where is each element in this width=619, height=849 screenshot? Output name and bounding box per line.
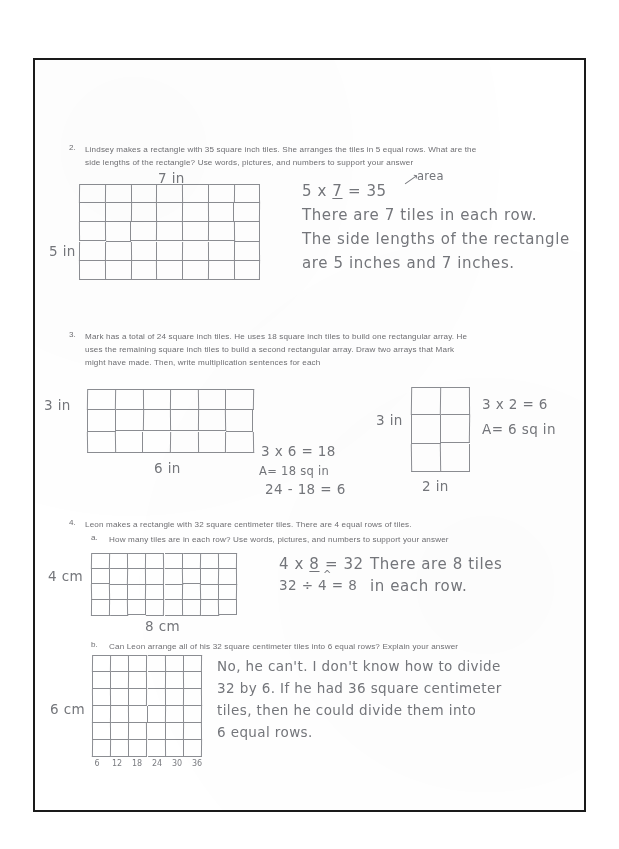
q4b-grid-left-label: 6 cm [50,701,85,717]
grid-cell [170,432,198,453]
grid-row [91,600,237,616]
grid-cell [226,410,254,431]
q3-array-a-work-line-2: A= 18 sq in [259,464,329,478]
grid-cell [111,672,129,689]
grid-cell [209,242,235,261]
question-4b-letter: b. [91,640,98,649]
grid-cell [184,689,202,706]
grid-cell [147,672,165,689]
grid-cell [110,600,128,616]
grid-cell [129,672,147,689]
grid-cell [143,389,171,410]
grid-cell [166,689,184,706]
grid-cell [106,261,132,280]
grid-row [92,672,202,689]
q2-answer-line-1: There are 7 tiles in each row. [302,206,537,224]
grid-cell [219,553,237,569]
grid-cell [110,569,128,585]
grid-cell [183,569,201,585]
q4a-equation-prefix: 4 x [279,555,309,573]
grid-cell [209,261,235,280]
q2-equation-suffix: = 35 [343,182,387,200]
grid-row [92,689,202,706]
grid-cell [91,553,110,569]
grid-cell [79,222,106,241]
grid-row [92,740,202,757]
grid-row [79,261,260,280]
grid-cell [234,203,260,222]
grid-cell [166,672,184,689]
grid-row [87,432,253,453]
grid-cell [166,740,184,757]
grid-cell [87,410,116,431]
grid-cell [208,184,234,203]
grid-cell [147,655,165,672]
grid-cell [147,740,165,757]
skip-count-label: 30 [167,759,187,768]
grid-cell [115,389,143,410]
grid-cell [147,706,165,723]
grid-row [91,584,237,600]
grid-cell [183,242,209,261]
q3-array-a-work-line-1: 3 x 6 = 18 [261,443,336,459]
grid-cell [128,553,146,569]
grid-cell [92,655,111,672]
question-2-line-2: side lengths of the rectangle? Use words… [85,156,565,169]
grid-cell [170,389,198,410]
grid-cell [92,706,111,723]
grid-cell [170,410,198,431]
grid-cell [92,740,111,757]
q4a-equation-blank: 8 [309,555,319,573]
question-2-text: Lindsey makes a rectangle with 35 square… [85,143,565,169]
grid-cell [157,203,183,222]
q3-array-b-grid [411,387,470,472]
grid-cell [219,584,237,600]
grid-cell [411,387,441,415]
grid-cell [157,222,183,241]
question-2-line-1: Lindsey makes a rectangle with 35 square… [85,143,565,156]
q2-answer-line-2: The side lengths of the rectangle [302,230,570,248]
grid-cell [183,203,209,222]
grid-cell [129,689,147,706]
skip-count-label: 18 [127,759,147,768]
grid-cell [219,600,237,616]
grid-row [411,444,470,472]
grid-cell [201,569,219,585]
grid-cell [111,655,129,672]
q4a-equation: 4 x 8 = 32 [279,555,364,573]
grid-cell [183,261,209,280]
grid-cell [111,723,129,740]
grid-row [92,655,202,672]
grid-cell [92,723,111,740]
grid-cell [131,203,157,222]
q2-answer-line-3: are 5 inches and 7 inches. [302,254,515,272]
q3-array-a-grid [87,389,253,453]
grid-cell [184,672,202,689]
grid-cell [131,184,157,203]
grid-cell [111,689,129,706]
grid-cell [198,389,226,410]
grid-cell [201,600,219,616]
grid-cell [411,415,441,443]
grid-row [92,723,202,740]
grid-cell [146,584,164,600]
grid-cell [201,553,219,569]
grid-cell [234,184,260,203]
grid-cell [143,410,171,431]
grid-row [91,569,237,585]
question-2-number: 2. [69,143,76,152]
q4a-rectangle-grid [91,553,237,615]
question-4a-letter: a. [91,533,98,542]
q4a-grid-bottom-label: 8 cm [145,618,180,634]
grid-cell [164,569,182,585]
grid-cell [92,689,111,706]
q4a-division-line: 32 ÷ 4 = 8 [279,577,357,593]
grid-row [87,389,253,410]
grid-cell [182,584,200,600]
grid-row [87,410,253,431]
grid-cell [111,706,129,723]
q4a-answer-line-2: in each row. [370,577,467,595]
grid-cell [184,723,202,740]
question-4-line-1: Leon makes a rectangle with 32 square ce… [85,518,565,531]
grid-row [79,184,260,203]
